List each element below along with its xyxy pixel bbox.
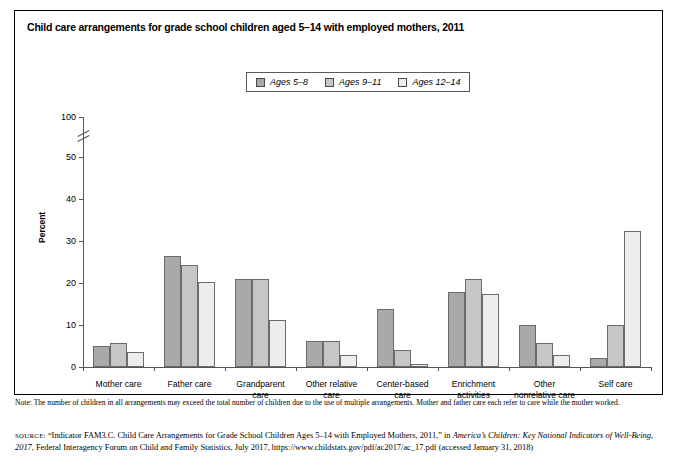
bar[interactable] [377, 309, 394, 367]
x-axis-category-label-line1: Enrichment [438, 379, 509, 390]
bar-group: Center-basedcare [367, 117, 438, 367]
x-axis-tick-mark [154, 367, 155, 371]
plot-area: 10050403020100Mother careFather careGran… [83, 117, 651, 367]
chart-source: SOURCE: “Indicator FAM3.C. Child Care Ar… [15, 430, 663, 453]
bar-group: Other relativecare [296, 117, 367, 367]
x-axis-tick-mark [367, 367, 368, 371]
bar[interactable] [110, 343, 127, 367]
y-axis-tick-label: 10 [54, 320, 76, 330]
bar-group-bars [367, 117, 438, 367]
bar[interactable] [269, 320, 286, 367]
legend-item: Ages 5–8 [256, 77, 308, 87]
y-axis-tick-label: 100 [54, 112, 76, 122]
bar-group-bars [154, 117, 225, 367]
bar[interactable] [607, 325, 624, 367]
source-text-part1: “Indicator FAM3.C. Child Care Arrangemen… [46, 431, 453, 440]
bar-group-bars [580, 117, 651, 367]
y-axis-tick-label: 30 [54, 236, 76, 246]
bar[interactable] [553, 355, 570, 367]
chart-note: Note: The number of children in all arra… [15, 398, 661, 409]
x-axis-category-label: Father care [154, 379, 225, 390]
x-axis-tick-mark [651, 367, 652, 371]
bar-group: Grandparentcare [225, 117, 296, 367]
legend-item-label: Ages 12–14 [412, 77, 460, 87]
x-axis-category-label-line1: Other relative [296, 379, 367, 390]
bar[interactable] [252, 279, 269, 367]
bar-group: Enrichmentactivities [438, 117, 509, 367]
x-axis-tick-mark [438, 367, 439, 371]
bar-group-bars [225, 117, 296, 367]
x-axis-category-label: Mother care [83, 379, 154, 390]
x-axis-category-label-line1: Other [509, 379, 580, 390]
bar-group: Self care [580, 117, 651, 367]
x-axis-category-label-line1: Mother care [83, 379, 154, 390]
x-axis-tick-mark [83, 367, 84, 371]
x-axis-tick-mark [296, 367, 297, 371]
x-axis-category-label-line1: Self care [580, 379, 651, 390]
bar-group-bars [83, 117, 154, 367]
bar[interactable] [536, 343, 553, 367]
bar-group: Mother care [83, 117, 154, 367]
bar-group-bars [509, 117, 580, 367]
legend-item: Ages 9–11 [325, 77, 381, 87]
bar[interactable] [323, 341, 340, 367]
legend-item-label: Ages 5–8 [270, 77, 308, 87]
legend-swatch-icon [325, 78, 334, 87]
legend-swatch-icon [256, 78, 265, 87]
bar-group: Othernonrelative care [509, 117, 580, 367]
bar[interactable] [93, 346, 110, 367]
bar[interactable] [198, 282, 215, 367]
bar-group: Father care [154, 117, 225, 367]
bar[interactable] [590, 358, 607, 367]
page-title: Child care arrangements for grade school… [27, 21, 464, 33]
legend-item-label: Ages 9–11 [339, 77, 381, 87]
x-axis-tick-mark [580, 367, 581, 371]
bar-group-bars [296, 117, 367, 367]
y-axis-tick: 50 [54, 152, 83, 162]
bar[interactable] [340, 355, 357, 367]
y-axis-tick: 30 [54, 236, 83, 246]
source-text-part2: , Federal Interagency Forum on Child and… [32, 443, 533, 452]
legend-swatch-icon [398, 78, 407, 87]
y-axis-tick: 40 [54, 194, 83, 204]
bar[interactable] [465, 279, 482, 367]
x-axis-category-label: Self care [580, 379, 651, 390]
bar[interactable] [624, 231, 641, 368]
bar[interactable] [164, 256, 181, 367]
y-axis-tick: 10 [54, 320, 83, 330]
bar[interactable] [127, 352, 144, 367]
bar[interactable] [235, 279, 252, 367]
source-prefix: SOURCE: [15, 432, 46, 439]
bar[interactable] [306, 341, 323, 367]
y-axis-tick-label: 50 [54, 152, 76, 162]
x-axis-category-label-line1: Center-based [367, 379, 438, 390]
y-axis-label: Percent [37, 212, 47, 243]
bar[interactable] [482, 294, 499, 368]
x-axis-category-label-line1: Grandparent [225, 379, 296, 390]
bar[interactable] [394, 350, 411, 367]
x-axis-tick-mark [509, 367, 510, 371]
figure-container: Child care arrangements for grade school… [14, 10, 663, 395]
bar[interactable] [411, 364, 428, 367]
y-axis-tick-label: 0 [54, 362, 76, 372]
bar-group-bars [438, 117, 509, 367]
y-axis-tick: 0 [54, 362, 83, 372]
bar[interactable] [181, 265, 198, 367]
y-axis-tick-label: 40 [54, 194, 76, 204]
x-axis-tick-mark [225, 367, 226, 371]
chart-legend: Ages 5–8Ages 9–11Ages 12–14 [246, 72, 470, 92]
y-axis-tick-label: 20 [54, 278, 76, 288]
bar[interactable] [519, 325, 536, 367]
y-axis-tick: 100 [54, 112, 83, 122]
x-axis-category-label-line1: Father care [154, 379, 225, 390]
y-axis-tick: 20 [54, 278, 83, 288]
legend-item: Ages 12–14 [398, 77, 460, 87]
bar[interactable] [448, 292, 465, 367]
